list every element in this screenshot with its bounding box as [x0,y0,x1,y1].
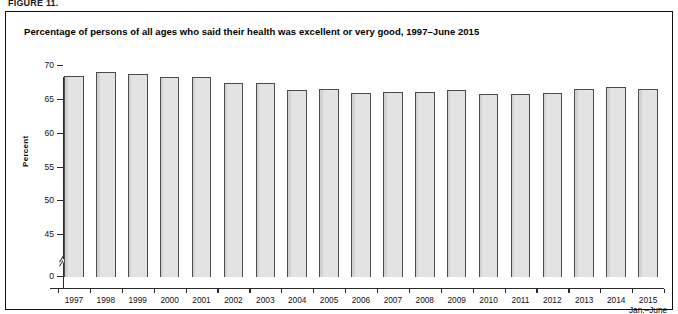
y-axis-tick-label: 55 [6,163,54,172]
bar-shade [416,93,419,277]
x-axis-tick [217,289,218,294]
y-axis-tick [57,65,63,66]
chart-title: Percentage of persons of all ages who sa… [24,26,479,37]
chart-frame: Percentage of persons of all ages who sa… [5,11,673,310]
bar-shade [129,75,132,276]
x-axis-tick [536,289,537,294]
bar-shade [225,84,228,276]
x-axis-tick [90,289,91,294]
x-axis-tick-label: 2004 [281,296,313,305]
x-axis-tick [154,289,155,294]
y-axis-tick-label: 0 [6,272,54,281]
x-axis-tick-label: 1998 [90,296,122,305]
x-axis-tick-label: 2001 [186,296,218,305]
x-axis-tick [600,289,601,294]
x-axis-tick [345,289,346,294]
bar [574,89,594,277]
bar-shade [607,88,610,277]
x-axis-tick-label: 2012 [536,296,568,305]
x-axis-tick-label: 2011 [505,296,537,305]
x-axis-tick-label: 2003 [249,296,281,305]
bar-shade [384,93,387,277]
bar [128,74,148,276]
x-axis-tick [664,289,665,294]
x-axis-tick [632,289,633,294]
x-axis-tick-label: 2002 [217,296,249,305]
bar [192,77,212,277]
x-axis-tick-label: 2006 [345,296,377,305]
bar [383,92,403,277]
bar [543,93,563,277]
bar [160,77,180,276]
bar-shade [257,84,260,276]
bar [319,89,339,276]
x-axis-tick [249,289,250,294]
x-axis-tick [186,289,187,294]
x-axis-tick-label: 1999 [122,296,154,305]
bar-shade [512,95,515,277]
bar [606,87,626,277]
x-axis-tick [441,289,442,294]
x-axis-tick-label: 2009 [441,296,473,305]
bar-shade [320,90,323,276]
x-axis-tick [122,289,123,294]
y-axis-tick-label: 65 [6,95,54,104]
bar [415,92,435,277]
bar [351,93,371,277]
bar-shade [65,77,68,277]
x-axis-line [50,288,664,289]
x-axis-tick-label: 2015 [632,296,664,305]
x-axis-tick [313,289,314,294]
bar [96,72,116,276]
x-axis-tick [58,289,59,294]
bar-shade [480,95,483,277]
x-axis-tick [473,289,474,294]
y-axis-tick-label: 70 [6,61,54,70]
bar [224,83,244,276]
bar-shade [97,73,100,276]
bar [638,89,658,277]
x-axis-tick-label: 2013 [568,296,600,305]
bar-shade [575,90,578,277]
bar-shade [352,94,355,277]
bar [479,94,499,277]
x-axis-tick [568,289,569,294]
bar-shade [544,94,547,277]
y-axis-tick-label: 50 [6,196,54,205]
x-axis-tick-label: 2010 [473,296,505,305]
x-axis-tick [409,289,410,294]
bar [447,90,467,277]
x-axis-tick-label: 2000 [154,296,186,305]
x-axis-tick-label: 2005 [313,296,345,305]
bar [287,90,307,277]
figure-label: FIGURE 11. [8,0,59,8]
x-axis-tick-label: 2008 [409,296,441,305]
x-axis-tick [505,289,506,294]
bar-shade [161,78,164,276]
bar [64,76,84,277]
x-axis-tick-label: 2014 [600,296,632,305]
y-axis-tick-label: 45 [6,230,54,239]
bar [256,83,276,276]
x-axis-sublabel: Jan.–June [628,306,668,314]
bar-shade [193,78,196,277]
bar-shade [639,90,642,277]
x-axis-tick [281,289,282,294]
y-axis-tick-label: 60 [6,129,54,138]
x-axis-tick-label: 1997 [58,296,90,305]
x-axis-tick-label: 2007 [377,296,409,305]
x-axis-tick [377,289,378,294]
bar [511,94,531,277]
bar-shade [288,91,291,277]
figure-root: FIGURE 11. Percentage of persons of all … [0,0,678,314]
bar-shade [448,91,451,277]
